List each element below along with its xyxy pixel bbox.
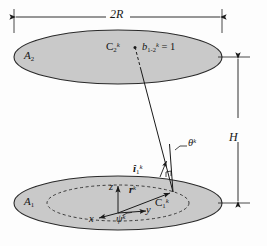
diagram-svg <box>0 0 267 246</box>
ray-endpoint-dot <box>134 46 137 49</box>
unit-vector-arrow <box>160 161 167 177</box>
beam-label: b1-2k = 1 <box>142 42 175 53</box>
unit-vector-label: î1k <box>133 163 143 175</box>
radius-vector-label: rk <box>129 185 136 196</box>
psi-label: ψk <box>116 214 125 225</box>
surface-label-a2: A2 <box>24 50 34 62</box>
theta-leader <box>175 146 187 150</box>
theta-label: θk <box>188 138 196 149</box>
point-label-c1: C1k <box>155 197 169 209</box>
point-label-c2: C2k <box>106 41 120 53</box>
x-axis-label: x <box>89 214 94 225</box>
y-axis-label: y <box>146 205 151 216</box>
width-dimension-label: 2R <box>110 8 123 20</box>
surface-label-a1: A1 <box>24 196 34 208</box>
top-disk <box>14 30 222 84</box>
z-axis-label: z <box>109 182 113 193</box>
height-dimension-label: H <box>229 131 238 143</box>
figure-canvas: 2R H A2 A1 C2k C1k b1-2k = 1 θk î1k rk ψ… <box>0 0 267 246</box>
